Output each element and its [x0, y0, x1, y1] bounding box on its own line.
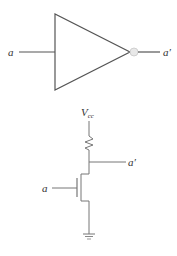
gate-input-label: a	[8, 46, 14, 58]
gate-output-label: a′	[163, 46, 172, 58]
circuit-output-label: a′	[128, 156, 137, 168]
mosfet-icon	[52, 174, 89, 201]
not-gate-symbol: a a′	[8, 14, 172, 90]
ground-icon	[83, 234, 95, 239]
inversion-bubble-icon	[130, 48, 138, 56]
vcc-subscript: cc	[88, 112, 95, 120]
mosfet-channel	[81, 174, 89, 201]
gate-triangle	[55, 14, 130, 90]
inverter-diagram: a a′ Vcc a′ a	[0, 0, 177, 256]
transistor-circuit: Vcc a′ a	[42, 106, 137, 239]
circuit-input-label: a	[42, 182, 48, 194]
vcc-label: Vcc	[81, 106, 95, 120]
resistor-icon	[85, 136, 93, 150]
